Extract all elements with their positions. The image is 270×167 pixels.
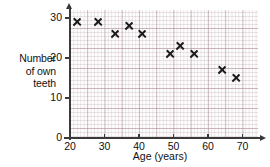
data-point-marker (124, 22, 133, 31)
data-point-marker (110, 30, 119, 39)
y-axis-arrow-icon (66, 3, 72, 9)
y-axis-tick (65, 97, 70, 98)
y-axis-tick (65, 57, 70, 58)
x-axis-tick (69, 134, 70, 139)
x-axis-tick (242, 134, 243, 139)
data-point-marker (176, 42, 185, 51)
x-axis-line (64, 137, 262, 139)
plot-area (70, 10, 258, 138)
y-axis-tick-label: 20 (36, 51, 62, 63)
x-axis-tick (138, 134, 139, 139)
y-axis-tick-label: 10 (36, 91, 62, 103)
x-axis-tick (104, 134, 105, 139)
y-axis-tick-label: 30 (36, 11, 62, 23)
data-point-marker (190, 50, 199, 59)
y-axis-label-line-2: of own (0, 65, 56, 78)
data-point-marker (138, 30, 147, 39)
x-axis-tick (173, 134, 174, 139)
data-point-marker (231, 74, 240, 83)
x-axis-tick-label: 50 (160, 140, 188, 152)
y-axis-tick (65, 17, 70, 18)
x-axis-tick-label: 30 (91, 140, 119, 152)
x-axis-tick (207, 134, 208, 139)
x-axis-tick-label: 20 (56, 140, 84, 152)
data-point-marker (72, 18, 81, 27)
data-point-marker (217, 66, 226, 75)
x-axis-tick-label: 40 (125, 140, 153, 152)
data-point-marker (166, 50, 175, 59)
y-axis-label-line-3: teeth (0, 77, 56, 90)
x-axis-arrow-icon (260, 135, 266, 141)
y-axis-line (69, 6, 71, 140)
x-axis-tick-label: 60 (194, 140, 222, 152)
scatter-plot-figure: Number of own teeth Age (years) 0102030 … (0, 0, 270, 167)
data-point-marker (93, 18, 102, 27)
x-axis-tick-label: 70 (229, 140, 257, 152)
